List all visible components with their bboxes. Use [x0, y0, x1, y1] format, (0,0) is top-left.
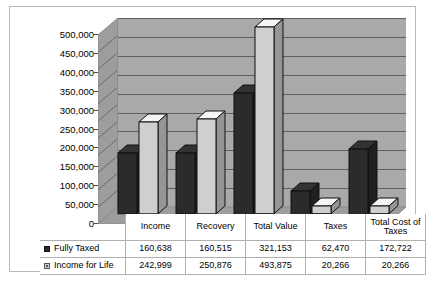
bars-layer	[98, 18, 406, 224]
y-axis-tick-label: 500,000	[32, 30, 94, 40]
table-column-header: Income	[126, 214, 186, 241]
table-header-row: IncomeRecoveryTotal ValueTaxesTotal Cost…	[40, 214, 426, 241]
y-axis: 500,000450,000400,000350,000300,000250,0…	[32, 25, 98, 214]
y-axis-tick-label: 150,000	[32, 162, 94, 172]
table-cell: 160,515	[186, 241, 246, 258]
table-column-header: Total Cost of Taxes	[366, 214, 426, 241]
y-axis-tick-label: 250,000	[32, 125, 94, 135]
bar-income-for-life-total-value	[255, 19, 285, 216]
y-axis-tick-label: 350,000	[32, 87, 94, 97]
table-column-header: Total Value	[246, 214, 306, 241]
legend-swatch-icon	[44, 263, 50, 269]
y-axis-tick-label: 200,000	[32, 143, 94, 153]
legend-entry-income-for-life: Income for Life	[40, 258, 126, 275]
y-axis-tick-label: 300,000	[32, 106, 94, 116]
legend-label: Fully Taxed	[54, 243, 99, 253]
data-table: IncomeRecoveryTotal ValueTaxesTotal Cost…	[40, 214, 426, 275]
table-row: Fully Taxed160,638160,515321,15362,47017…	[40, 241, 426, 258]
table-corner-cell	[40, 214, 126, 241]
y-axis-tick-label: 400,000	[32, 68, 94, 78]
table-cell: 250,876	[186, 258, 246, 275]
y-axis-tick-label: 100,000	[32, 181, 94, 191]
bar-income-for-life-income	[139, 114, 169, 216]
table-column-header: Taxes	[306, 214, 366, 241]
bar-income-for-life-recovery	[197, 111, 227, 216]
table-cell: 242,999	[126, 258, 186, 275]
y-axis-tick-label: 50,000	[32, 200, 94, 210]
table-cell: 20,266	[306, 258, 366, 275]
legend-entry-fully-taxed: Fully Taxed	[40, 241, 126, 258]
y-axis-tick-label: 450,000	[32, 49, 94, 59]
table-cell: 160,638	[126, 241, 186, 258]
legend-swatch-icon	[44, 246, 50, 252]
chart-frame: 500,000450,000400,000350,000300,000250,0…	[9, 6, 416, 272]
table-cell: 493,875	[246, 258, 306, 275]
table-row: Income for Life242,999250,876493,87520,2…	[40, 258, 426, 275]
table-cell: 62,470	[306, 241, 366, 258]
table-cell: 172,722	[366, 241, 426, 258]
table-cell: 321,153	[246, 241, 306, 258]
table-cell: 20,266	[366, 258, 426, 275]
legend-label: Income for Life	[54, 260, 114, 270]
table-column-header: Recovery	[186, 214, 246, 241]
